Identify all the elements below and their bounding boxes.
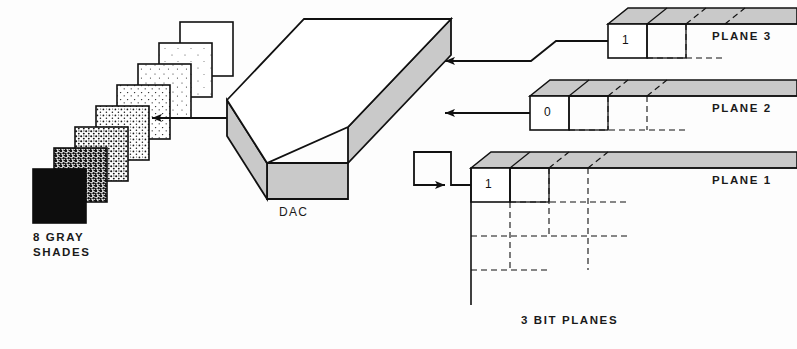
plane-2-label: PLANE 2 (712, 101, 772, 116)
plane-1-label: PLANE 1 (712, 173, 772, 188)
diagram-vector-layer (0, 0, 797, 349)
plane-2-bit-value: 0 (544, 105, 551, 119)
gray-shades-caption-line2: SHADES (33, 245, 91, 260)
plane-3-to-dac-wire (445, 41, 608, 61)
shade-tile-black (33, 169, 86, 223)
gray-shade-stack (33, 22, 233, 223)
plane-3-bit-value: 1 (622, 33, 629, 47)
diagram-canvas: 8 GRAY SHADES DAC 1 PLANE 3 0 PLANE 2 1 … (0, 0, 797, 349)
dac-block (227, 19, 451, 199)
bit-planes-caption: 3 BIT PLANES (521, 313, 618, 328)
plane-3-label: PLANE 3 (712, 29, 772, 44)
dac-label: DAC (279, 205, 308, 219)
dac-front-face (267, 163, 348, 199)
plane-1-bit-value: 1 (485, 177, 492, 191)
plane-1-to-dac-wire (414, 152, 471, 185)
gray-shades-caption-line1: 8 GRAY (33, 230, 84, 245)
